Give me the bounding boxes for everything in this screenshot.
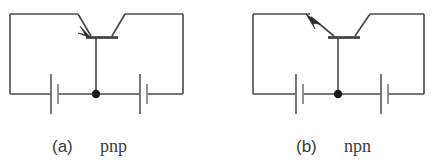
npn-collector-lead <box>355 14 370 36</box>
npn-caption-label: (b) <box>296 137 317 156</box>
pnp-caption-type: pnp <box>100 136 127 156</box>
npn-battery-left <box>296 74 303 114</box>
panel-npn: (b) npn <box>253 14 424 156</box>
pnp-battery-right <box>140 74 147 114</box>
npn-battery-right <box>381 74 388 114</box>
transistor-bias-circuits-figure: (a) pnp <box>0 0 433 163</box>
npn-arrowhead-icon <box>306 14 320 29</box>
panel-pnp: (a) pnp <box>10 14 183 156</box>
pnp-base-node <box>92 90 100 98</box>
npn-caption-type: npn <box>344 136 371 156</box>
pnp-emitter-lead <box>112 14 125 36</box>
pnp-battery-left <box>51 74 58 114</box>
npn-circuit-wires <box>253 14 424 94</box>
pnp-circuit-wires <box>10 14 183 94</box>
pnp-caption-label: (a) <box>52 137 73 156</box>
npn-base-node <box>334 90 342 98</box>
